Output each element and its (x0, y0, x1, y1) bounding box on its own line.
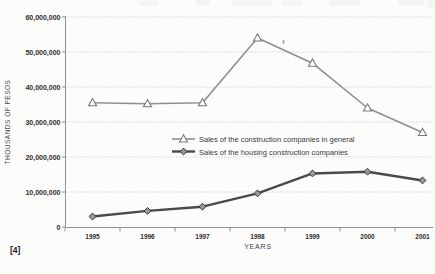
data-point-1996 (144, 208, 151, 215)
x-tick-label: 2000 (360, 233, 375, 240)
y-tick-label: 60,000,000 (25, 14, 60, 22)
data-point-2001 (419, 177, 426, 184)
x-tick-label: 2001 (415, 233, 430, 240)
legend-label-general: Sales of the construction companies in g… (199, 135, 355, 144)
data-point-1998 (254, 34, 262, 41)
y-axis-ticks: 010,000,00020,000,00030,000,00040,000,00… (25, 14, 65, 231)
data-point-1998 (254, 190, 261, 197)
figure-reference: [4] (10, 245, 20, 255)
y-tick-label: 30,000,000 (25, 119, 60, 127)
x-axis-ticks: 1995199619971998199920002001 (65, 228, 430, 240)
x-tick-label: 1997 (195, 233, 210, 240)
y-tick-label: 10,000,000 (25, 189, 60, 197)
figure-container: 010,000,00020,000,00030,000,00040,000,00… (0, 0, 435, 274)
legend-marker-housing (172, 148, 195, 155)
x-tick-label: 1996 (140, 233, 155, 240)
x-axis-title: YEARS (244, 243, 272, 250)
data-point-1999 (309, 170, 316, 177)
data-point-2000 (364, 168, 371, 175)
y-tick-label: 50,000,000 (25, 49, 60, 57)
diamond-icon (180, 148, 187, 155)
scan-speck (283, 40, 285, 44)
y-tick-label: 40,000,000 (25, 84, 60, 92)
gridlines (66, 17, 434, 192)
legend-marker-general (172, 135, 195, 142)
series-layer (89, 34, 427, 220)
y-tick-label: 20,000,000 (25, 154, 60, 162)
y-tick-label: 0 (57, 224, 61, 231)
x-tick-label: 1995 (85, 233, 100, 240)
data-point-1995 (89, 213, 96, 220)
data-point-1997 (199, 203, 206, 210)
x-tick-label: 1998 (250, 233, 265, 240)
legend-label-housing: Sales of the housing construction compan… (199, 148, 348, 157)
line-chart: 010,000,00020,000,00030,000,00040,000,00… (0, 0, 435, 274)
legend: Sales of the construction companies in g… (172, 135, 355, 157)
x-tick-label: 1999 (305, 233, 320, 240)
y-axis-title: THOUSANDS OF PESOS (4, 79, 11, 164)
